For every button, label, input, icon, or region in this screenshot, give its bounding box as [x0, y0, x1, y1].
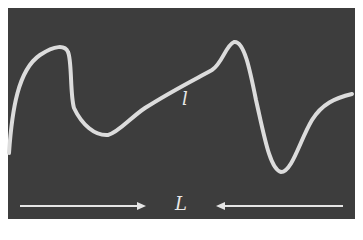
- right-arrow: [216, 202, 343, 210]
- left-arrow: [20, 202, 146, 210]
- curve-label: l: [182, 88, 188, 109]
- length-label: L: [175, 193, 187, 214]
- wavy-curve: [9, 42, 352, 172]
